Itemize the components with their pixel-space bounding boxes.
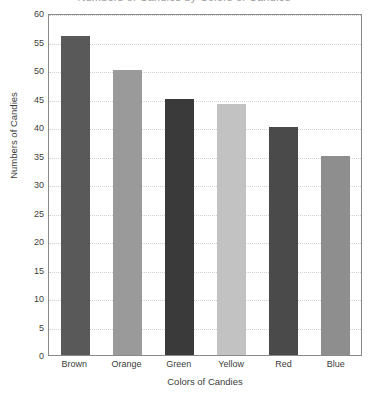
y-tick-label: 10 bbox=[18, 295, 44, 304]
bar-slot bbox=[205, 15, 257, 355]
bar-series bbox=[49, 15, 361, 355]
y-tick-label: 55 bbox=[18, 38, 44, 47]
y-axis-label: Numbers of Candies bbox=[8, 71, 19, 201]
x-axis-label: Colors of Candies bbox=[48, 376, 362, 387]
y-tick-label: 50 bbox=[18, 67, 44, 76]
chart-title-text: Numbers of Candies by Colors of Candies bbox=[0, 0, 368, 3]
bar-slot bbox=[49, 15, 101, 355]
x-tick-label: Red bbox=[257, 359, 309, 369]
x-tick-label: Brown bbox=[48, 359, 100, 369]
bar-green[interactable] bbox=[165, 99, 194, 356]
bar-yellow[interactable] bbox=[217, 104, 246, 355]
y-tick-label: 40 bbox=[18, 124, 44, 133]
bar-red[interactable] bbox=[269, 127, 298, 355]
y-tick-label: 30 bbox=[18, 181, 44, 190]
bar-orange[interactable] bbox=[113, 70, 142, 355]
y-tick-label: 15 bbox=[18, 266, 44, 275]
y-tick-label: 5 bbox=[18, 323, 44, 332]
x-tick-label: Yellow bbox=[205, 359, 257, 369]
bar-blue[interactable] bbox=[321, 156, 350, 356]
chart-title-clipped: Numbers of Candies by Colors of Candies bbox=[0, 0, 368, 7]
y-tick-label: 35 bbox=[18, 152, 44, 161]
y-tick-label: 0 bbox=[18, 352, 44, 361]
x-axis-ticks: BrownOrangeGreenYellowRedBlue bbox=[48, 359, 362, 369]
y-tick-label: 45 bbox=[18, 95, 44, 104]
bar-brown[interactable] bbox=[61, 36, 90, 355]
x-tick-label: Blue bbox=[310, 359, 362, 369]
bar-slot bbox=[257, 15, 309, 355]
x-tick-label: Orange bbox=[100, 359, 152, 369]
plot-area bbox=[48, 14, 362, 356]
bar-slot bbox=[153, 15, 205, 355]
bar-slot bbox=[309, 15, 361, 355]
y-axis-ticks: 051015202530354045505560 bbox=[18, 14, 44, 356]
y-tick-label: 20 bbox=[18, 238, 44, 247]
x-tick-label: Green bbox=[153, 359, 205, 369]
y-tick-label: 60 bbox=[18, 10, 44, 19]
y-tick-label: 25 bbox=[18, 209, 44, 218]
bar-slot bbox=[101, 15, 153, 355]
